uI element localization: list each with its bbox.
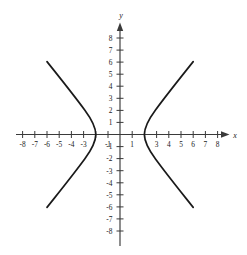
x-tick-label: 3 — [155, 140, 159, 149]
coordinate-plane-plot: -8 -7 -6 -5 -4 -3 -1 1 3 4 5 6 7 8 8 7 6… — [0, 0, 247, 255]
y-tick-label: 7 — [109, 46, 113, 55]
x-tick-label: -5 — [56, 140, 62, 149]
x-tick-label: 1 — [130, 140, 134, 149]
y-tick-label: -8 — [106, 227, 112, 236]
y-tick-label: -4 — [106, 179, 112, 188]
y-tick-label: -2 — [106, 154, 112, 163]
y-tick-label: -6 — [106, 203, 112, 212]
x-tick-label: 5 — [179, 140, 183, 149]
x-tick-label: 8 — [216, 140, 220, 149]
y-tick-label: -5 — [106, 191, 112, 200]
x-tick-label: -4 — [68, 140, 74, 149]
x-tick-label: 6 — [191, 140, 195, 149]
axes-group — [16, 23, 230, 247]
x-tick-label: -6 — [44, 140, 50, 149]
y-tick-label: 1 — [109, 118, 113, 127]
y-tick-label: 2 — [109, 106, 113, 115]
y-axis-arrow-icon — [117, 23, 123, 32]
y-tick-label: -3 — [106, 167, 112, 176]
x-tick-label: -8 — [20, 140, 26, 149]
x-tick-label: 4 — [167, 140, 171, 149]
x-tick-label: -7 — [32, 140, 38, 149]
y-tick-label: 4 — [109, 82, 113, 91]
y-tick-label: -1 — [106, 142, 112, 151]
y-axis-label: y — [118, 11, 123, 20]
hyperbola-figure: -8 -7 -6 -5 -4 -3 -1 1 3 4 5 6 7 8 8 7 6… — [0, 0, 247, 255]
y-tick-label: -7 — [106, 215, 112, 224]
y-tick-label: 5 — [109, 70, 113, 79]
y-tick-label: 6 — [109, 58, 113, 67]
x-axis-arrow-icon — [221, 131, 230, 137]
x-tick-label: -3 — [81, 140, 87, 149]
x-axis-label: x — [232, 131, 237, 140]
y-tick-label: 3 — [109, 94, 113, 103]
x-tick-label: 7 — [204, 140, 208, 149]
y-tick-label: 8 — [109, 34, 113, 43]
